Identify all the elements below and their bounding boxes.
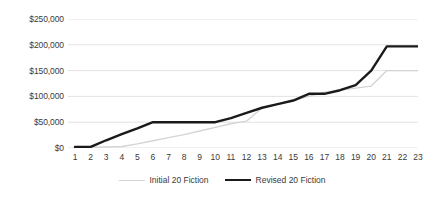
x-axis-label: 9 [197,152,202,163]
x-axis-label: 23 [413,152,422,163]
x-axis-label: 10 [211,152,220,163]
plot-area [68,19,418,148]
gridlines [68,19,418,148]
y-axis-label: $250,000 [29,14,64,24]
x-axis-label: 4 [119,152,124,163]
x-axis-label: 11 [226,152,235,163]
x-axis-label: 14 [273,152,282,163]
y-axis-label: $150,000 [29,66,64,76]
y-axis-label: $100,000 [29,91,64,101]
x-axis-label: 20 [366,152,375,163]
x-axis-label: 16 [304,152,313,163]
x-axis-label: 17 [320,152,329,163]
legend-swatch-icon-revised [225,179,251,181]
x-axis-label: 19 [351,152,360,163]
x-axis-label: 6 [151,152,156,163]
y-axis: $0$50,000$100,000$150,000$200,000$250,00… [0,0,64,198]
y-axis-label: $50,000 [34,117,64,127]
line-chart: $0$50,000$100,000$150,000$200,000$250,00… [0,0,444,198]
chart-svg [68,19,418,148]
y-axis-label: $200,000 [29,40,64,50]
series-line-initial-20-fiction [75,71,418,148]
x-axis-label: 18 [335,152,344,163]
legend-swatch-icon-initial [119,180,145,181]
x-axis-label: 13 [257,152,266,163]
x-axis-label: 21 [382,152,391,163]
x-axis-label: 3 [104,152,109,163]
legend-label-revised: Revised 20 Fiction [256,175,326,185]
chart-legend: Initial 20 Fiction Revised 20 Fiction [0,175,444,185]
x-axis-label: 15 [289,152,298,163]
x-axis-label: 22 [398,152,407,163]
x-axis-label: 1 [73,152,78,163]
x-axis: 1234567891011121314151617181920212223 [0,152,444,166]
legend-item-revised-20-fiction[interactable]: Revised 20 Fiction [225,175,326,185]
x-axis-label: 7 [166,152,171,163]
x-axis-label: 2 [88,152,93,163]
legend-label-initial: Initial 20 Fiction [150,175,209,185]
legend-item-initial-20-fiction[interactable]: Initial 20 Fiction [119,175,209,185]
x-axis-label: 8 [182,152,187,163]
x-axis-label: 5 [135,152,140,163]
x-axis-label: 12 [242,152,251,163]
